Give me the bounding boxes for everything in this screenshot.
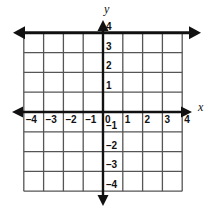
y-tick-label: 3 <box>106 42 112 52</box>
x-tick-label: –3 <box>46 115 57 125</box>
x-tick-label: –2 <box>65 115 76 125</box>
x-tick-label: 2 <box>145 115 151 125</box>
x-tick-label: 3 <box>164 115 170 125</box>
y-tick-label: 2 <box>106 61 112 71</box>
y-axis-label: y <box>104 3 109 15</box>
y-tick-label: –2 <box>106 141 117 151</box>
x-tick-label: –1 <box>85 115 96 125</box>
y-tick-label: –1 <box>106 121 117 131</box>
y-tick-label: 4 <box>106 22 112 32</box>
coordinate-plane-figure: x y –4–3–2–101234 4321–1–2–3–4 <box>0 0 214 212</box>
x-tick-label: –4 <box>26 115 37 125</box>
y-tick-label: –4 <box>106 180 117 190</box>
x-axis-label: x <box>198 101 203 113</box>
x-axis-arrow-left-head <box>12 107 23 118</box>
y-tick-label: –3 <box>106 160 117 170</box>
axes-group <box>12 20 192 206</box>
y-axis-arrow-down-head <box>98 195 109 206</box>
graph-line-arrow-left-head <box>13 26 25 39</box>
y-tick-label: 1 <box>106 81 112 91</box>
x-tick-label: 4 <box>184 115 190 125</box>
x-tick-label: 1 <box>125 115 131 125</box>
graph-line-arrow-right-head <box>189 26 201 39</box>
